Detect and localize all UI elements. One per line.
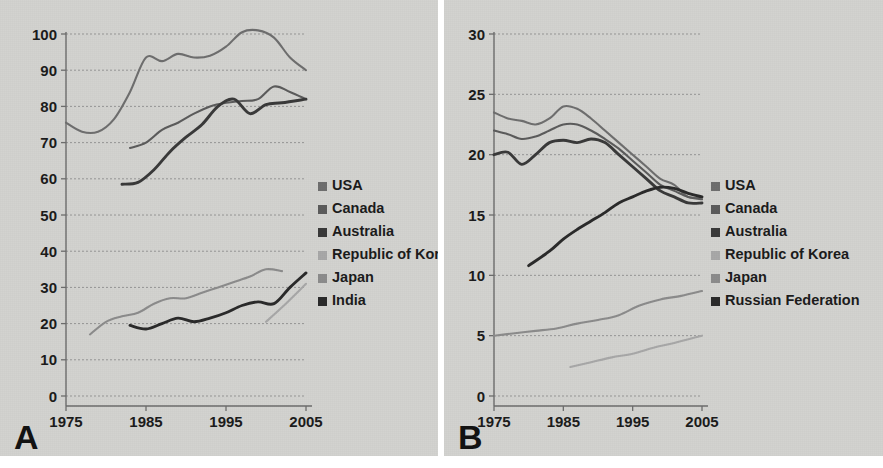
legend-swatch-usa xyxy=(318,182,327,191)
legend-label-republic-of-korea: Republic of Korea xyxy=(332,246,438,262)
figure-root: 01020304050607080901001975198519952005US… xyxy=(0,0,883,468)
legend-label-japan: Japan xyxy=(725,269,767,285)
y-tick-label: 10 xyxy=(468,267,485,284)
y-tick-label: 20 xyxy=(40,315,57,332)
y-tick-label: 20 xyxy=(468,146,485,163)
y-tick-label: 50 xyxy=(40,207,57,224)
series-line-australia xyxy=(122,99,306,184)
series-line-india xyxy=(130,273,306,329)
legend-swatch-republic-of-korea xyxy=(318,251,327,260)
x-tick-label: 2005 xyxy=(685,413,718,430)
series-line-canada xyxy=(130,86,306,148)
panel-a-letter: A xyxy=(14,420,39,454)
legend-swatch-india xyxy=(318,297,327,306)
legend-swatch-usa xyxy=(711,182,720,191)
series-line-japan xyxy=(494,291,702,336)
legend-swatch-russian-federation xyxy=(711,297,720,306)
legend-label-canada: Canada xyxy=(725,200,778,216)
y-tick-label: 30 xyxy=(468,26,485,43)
legend-label-usa: USA xyxy=(332,177,363,193)
legend-label-usa: USA xyxy=(725,177,756,193)
legend-label-australia: Australia xyxy=(725,223,788,239)
legend-swatch-australia xyxy=(711,228,720,237)
series-line-republic-of-korea xyxy=(570,336,702,367)
legend-swatch-canada xyxy=(318,205,327,214)
x-tick-label: 1985 xyxy=(547,413,580,430)
y-tick-label: 90 xyxy=(40,62,57,79)
y-tick-label: 70 xyxy=(40,134,57,151)
x-tick-label: 1975 xyxy=(49,413,82,430)
panel-b-letter: B xyxy=(458,420,483,454)
y-tick-label: 0 xyxy=(477,388,485,405)
legend-label-australia: Australia xyxy=(332,223,395,239)
panel-a-chart: 01020304050607080901001975198519952005US… xyxy=(0,0,438,456)
y-tick-label: 10 xyxy=(40,351,57,368)
legend-label-republic-of-korea: Republic of Korea xyxy=(725,246,850,262)
legend-label-india: India xyxy=(332,292,367,308)
x-tick-label: 1995 xyxy=(209,413,242,430)
y-tick-label: 15 xyxy=(468,207,485,224)
x-tick-label: 1985 xyxy=(129,413,162,430)
y-tick-label: 60 xyxy=(40,170,57,187)
legend-swatch-japan xyxy=(711,274,720,283)
panel-a: 01020304050607080901001975198519952005US… xyxy=(0,0,438,456)
y-tick-label: 80 xyxy=(40,98,57,115)
legend-label-canada: Canada xyxy=(332,200,385,216)
legend-swatch-canada xyxy=(711,205,720,214)
legend-swatch-australia xyxy=(318,228,327,237)
y-tick-label: 30 xyxy=(40,279,57,296)
series-line-australia xyxy=(494,139,702,203)
x-tick-label: 1995 xyxy=(616,413,649,430)
legend-label-japan: Japan xyxy=(332,269,374,285)
series-line-usa xyxy=(494,106,702,198)
legend-label-russian-federation: Russian Federation xyxy=(725,292,860,308)
y-tick-label: 100 xyxy=(32,26,57,43)
y-tick-label: 0 xyxy=(49,388,57,405)
legend-swatch-japan xyxy=(318,274,327,283)
y-tick-label: 40 xyxy=(40,243,57,260)
y-tick-label: 25 xyxy=(468,86,485,103)
panel-b-chart: 0510152025301975198519952005USACanadaAus… xyxy=(444,0,883,456)
x-tick-label: 2005 xyxy=(289,413,322,430)
panel-b: 0510152025301975198519952005USACanadaAus… xyxy=(444,0,883,456)
y-tick-label: 5 xyxy=(477,327,485,344)
legend-swatch-republic-of-korea xyxy=(711,251,720,260)
